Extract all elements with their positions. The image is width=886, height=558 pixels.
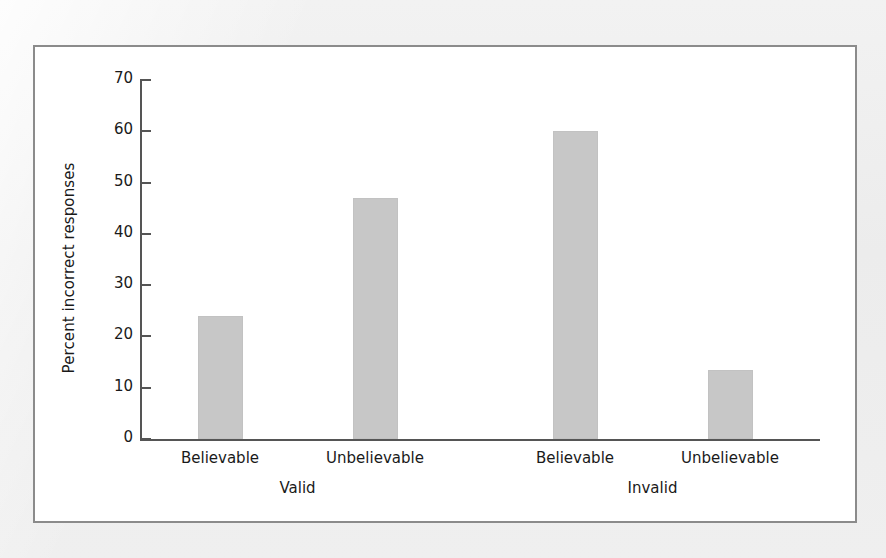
y-axis-tick (140, 284, 151, 286)
y-axis-tick (140, 438, 151, 440)
y-axis-tick-label: 0 (93, 428, 133, 446)
bar (708, 370, 753, 439)
y-axis-tick (140, 233, 151, 235)
x-axis-category-label: Unbelievable (295, 449, 455, 467)
x-axis-group-label: Valid (218, 479, 378, 497)
y-axis-tick (140, 387, 151, 389)
y-axis-tick-label-wrap: 10 (85, 388, 133, 390)
y-axis-title: Percent incorrect responses (60, 138, 78, 398)
y-axis-tick (140, 182, 151, 184)
y-axis-tick-label-wrap: 60 (85, 131, 133, 133)
y-axis-tick-label-wrap: 20 (85, 336, 133, 338)
y-axis-tick-label: 40 (93, 223, 133, 241)
x-axis-category-label: Believable (495, 449, 655, 467)
y-axis-tick-label: 50 (93, 172, 133, 190)
y-axis-tick-label-wrap: 70 (85, 80, 133, 82)
y-axis-tick-label: 20 (93, 325, 133, 343)
bar (553, 131, 598, 439)
x-axis-group-label: Invalid (573, 479, 733, 497)
y-axis-tick-label-wrap: 30 (85, 285, 133, 287)
y-axis-tick-label: 30 (93, 274, 133, 292)
y-axis-tick-label: 10 (93, 377, 133, 395)
bar-chart-plot: Percent incorrect responses 010203040506… (35, 47, 855, 521)
figure-frame: Percent incorrect responses 010203040506… (33, 45, 857, 523)
bar (198, 316, 243, 439)
bar (353, 198, 398, 439)
y-axis-tick (140, 79, 151, 81)
y-axis-tick (140, 335, 151, 337)
y-axis-tick-label: 60 (93, 120, 133, 138)
y-axis-tick-label-wrap: 40 (85, 234, 133, 236)
y-axis-tick (140, 130, 151, 132)
x-axis-category-label: Unbelievable (650, 449, 810, 467)
x-axis-category-label: Believable (140, 449, 300, 467)
x-axis-line (140, 439, 820, 441)
y-axis-tick-label-wrap: 0 (85, 439, 133, 441)
y-axis-tick-label: 70 (93, 69, 133, 87)
y-axis-tick-label-wrap: 50 (85, 183, 133, 185)
y-axis-line (140, 80, 142, 439)
